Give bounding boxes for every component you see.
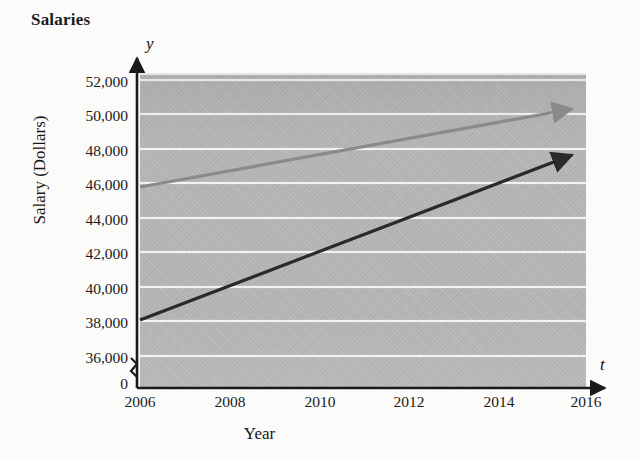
x-tick-label: 2012 — [369, 394, 449, 410]
y-tick-label: 42,000 — [56, 246, 128, 262]
y-tick-label: 50,000 — [56, 108, 128, 124]
gridline-52000 — [140, 79, 586, 81]
page-title: Salaries — [31, 10, 90, 30]
x-axis-title: Year — [0, 424, 639, 444]
y-tick-label: 46,000 — [56, 177, 128, 193]
gridline-46000 — [140, 182, 586, 184]
gridline-50000 — [140, 113, 586, 115]
plot-area — [140, 73, 586, 388]
y-tick-label: 40,000 — [56, 281, 128, 297]
x-tick-label: 2008 — [190, 394, 270, 410]
x-tick-label: 2016 — [546, 394, 626, 410]
plot-shading — [140, 73, 586, 388]
y-tick-label: 38,000 — [56, 315, 128, 331]
chart-figure: Salaries — [0, 0, 639, 458]
gridline-44000 — [140, 73, 586, 75]
y-tick-label: 36,000 — [56, 350, 128, 366]
x-axis-variable-label: t — [600, 355, 605, 375]
gridline-48000 — [140, 148, 586, 150]
x-tick-label: 2010 — [280, 394, 360, 410]
gridline-42000 — [140, 251, 586, 253]
x-tick-label: 2014 — [459, 394, 539, 410]
y-axis-break-icon — [131, 358, 137, 377]
gridline-44000b — [140, 217, 586, 219]
y-axis-origin-label: 0 — [56, 376, 128, 392]
x-axis-title-text: Year — [244, 424, 275, 443]
gridline-38000 — [140, 320, 586, 322]
plot-texture — [140, 73, 586, 388]
gridline-36000 — [140, 355, 586, 357]
y-axis-title: Salary (Dollars) — [30, 70, 50, 270]
y-tick-label: 44,000 — [56, 212, 128, 228]
gridline-40000 — [140, 286, 586, 288]
x-tick-label: 2006 — [100, 394, 180, 410]
y-axis-variable-label: y — [146, 34, 154, 54]
y-tick-label: 52,000 — [56, 74, 128, 90]
y-tick-label: 48,000 — [56, 143, 128, 159]
